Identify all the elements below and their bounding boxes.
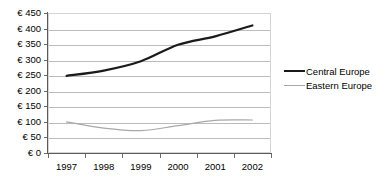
x-tick-mark [48,154,49,158]
x-tick-mark [234,154,235,158]
series-line-eastern-europe [67,120,253,131]
y-tick-label: € 200 [0,86,41,96]
legend-swatch-icon [284,81,305,90]
y-tick-label: € 100 [0,117,41,127]
y-tick-label: € 350 [0,39,41,49]
y-tick-label: € 50 [0,132,41,142]
legend-label: Central Europe [306,66,370,77]
x-tick-mark [85,154,86,158]
legend-swatch-icon [284,67,305,76]
x-tick-label: 1999 [122,161,159,172]
series-layer [48,13,271,153]
x-tick-mark [160,154,161,158]
y-tick-label: € 400 [0,24,41,34]
y-tick-label: € 0 [0,148,41,158]
x-tick-label: 1998 [85,161,122,172]
series-paths [67,25,253,130]
x-tick-label: 1997 [48,161,85,172]
y-tick-label: € 250 [0,70,41,80]
x-tick-label: 2002 [234,161,271,172]
x-axis-labels: 199719981999200020012002 [48,161,271,177]
x-tick-label: 2001 [197,161,234,172]
x-tick-label: 2000 [159,161,196,172]
y-tick-label: € 450 [0,8,41,18]
y-tick-label: € 150 [0,101,41,111]
y-axis-labels: € 450€ 400€ 350€ 300€ 250€ 200€ 150€ 100… [0,0,44,187]
line-chart: € 450€ 400€ 350€ 300€ 250€ 200€ 150€ 100… [0,0,392,187]
series-line-central-europe [67,25,253,75]
y-tick-label: € 300 [0,55,41,65]
chart-legend: Central EuropeEastern Europe [284,64,390,92]
legend-item[interactable]: Central Europe [284,64,390,78]
x-tick-mark [197,154,198,158]
x-tick-mark [271,154,272,158]
legend-item[interactable]: Eastern Europe [284,78,390,92]
x-tick-mark [122,154,123,158]
legend-label: Eastern Europe [306,80,372,91]
